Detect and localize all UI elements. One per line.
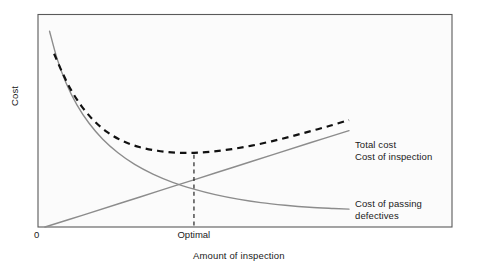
chart-figure: Cost Amount of inspection 0 Optimal Tota… [0,0,477,273]
series-label-cost-of-inspection: Cost of inspection [355,151,432,163]
series-label-total-cost: Total cost [355,139,396,151]
series-label-cost-of-passing-defectives: Cost of passing defectives [355,198,465,221]
chart-plot-area [0,0,477,273]
x-axis-tick-optimal: Optimal [177,229,210,240]
x-axis-title: Amount of inspection [193,250,285,261]
plot-background [38,15,452,228]
x-axis-tick-origin: 0 [34,229,39,240]
y-axis-title: Cost [9,86,20,106]
